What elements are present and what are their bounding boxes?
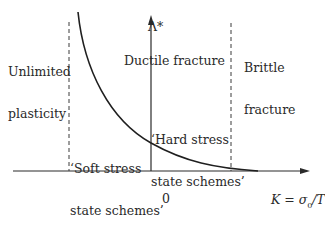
region-left-line2: plasticity xyxy=(8,107,71,121)
region-left-line1: Unlimited xyxy=(8,65,71,79)
y-axis-label-text: Λ* xyxy=(148,19,163,34)
region-right-line2: fracture xyxy=(244,103,296,117)
region-unlimited-plasticity: Unlimited plasticity xyxy=(8,37,71,149)
x-label-eq: = xyxy=(280,192,298,207)
region-brittle-fracture: Brittle fracture xyxy=(244,33,296,145)
x-axis-label: K = σ0/T xyxy=(255,179,325,227)
cropped-caption xyxy=(40,194,200,202)
region-middle-line1: Ductile fracture xyxy=(124,53,225,68)
x-label-var: K xyxy=(271,192,280,207)
x-label-den: /T xyxy=(312,192,325,207)
region-right-line1: Brittle xyxy=(244,61,296,75)
x-axis-arrow-icon xyxy=(300,168,310,174)
x-label-sigma: σ xyxy=(299,192,308,207)
hard-line1: ‘Hard stress xyxy=(151,133,245,147)
soft-line1: ‘Soft stress xyxy=(70,162,164,176)
region-ductile-fracture: Ductile fracture xyxy=(108,40,225,82)
